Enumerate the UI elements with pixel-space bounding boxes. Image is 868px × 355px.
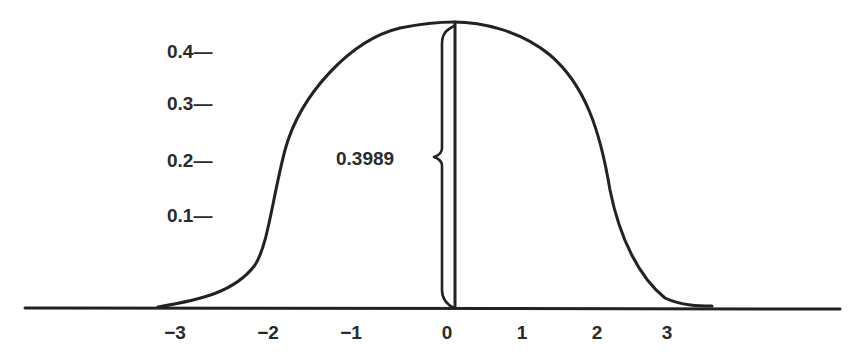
x-tick-label: 0 [442,322,453,343]
height-brace [434,26,454,308]
y-tick-label: 0.3— [167,93,212,114]
peak-value-label: 0.3989 [336,148,394,169]
x-tick-label: 3 [662,322,673,343]
y-tick-label: 0.4— [167,41,212,62]
x-tick-label: −2 [257,322,279,343]
y-tick-label: 0.1— [167,205,212,226]
x-tick-label: 1 [517,322,528,343]
x-tick-label: −1 [340,322,362,343]
y-tick-label: 0.2— [167,150,212,171]
x-tick-label: 2 [592,322,603,343]
x-tick-label: −3 [164,322,186,343]
density-curve [158,22,712,307]
x-axis-line [25,308,840,309]
normal-curve-chart: 0.3989 0.4— 0.3— 0.2— 0.1— −3 −2 −1 0 1 … [0,0,868,355]
